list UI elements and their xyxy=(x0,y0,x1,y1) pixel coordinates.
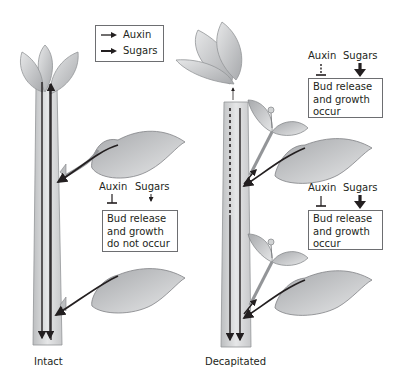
decap-top-outcome-box: Bud release and growth occur xyxy=(308,78,383,118)
intact-plant xyxy=(20,45,185,345)
legend-item-sugars: Sugars xyxy=(101,43,158,59)
decap-bottom-signal-glyphs xyxy=(316,195,366,209)
decap-top-sugars-label: Sugars xyxy=(343,50,377,62)
diagram-stage: Auxin Sugars Auxin Sugars Bud release an… xyxy=(0,0,393,378)
decap-top-signal-glyphs xyxy=(316,63,366,77)
outcome-line: do not occur xyxy=(107,238,173,251)
intact-stem xyxy=(33,86,62,345)
decap-bottom-outcome-box: Bud release and growth occur xyxy=(308,210,383,250)
intact-sugars-label: Sugars xyxy=(135,181,169,193)
intact-upper-leaf xyxy=(58,131,185,182)
outcome-line: Bud release xyxy=(313,81,378,94)
removed-apex xyxy=(176,22,242,84)
outcome-line: Bud release xyxy=(313,213,378,226)
legend: Auxin Sugars xyxy=(95,25,164,62)
decap-bottom-sugars-label: Sugars xyxy=(343,182,377,194)
caption-intact: Intact xyxy=(34,356,63,367)
outcome-line: and growth xyxy=(313,226,378,239)
caption-decapitated: Decapitated xyxy=(205,356,266,367)
intact-auxin-label: Auxin xyxy=(99,181,127,193)
intact-outcome-box: Bud release and growth do not occur xyxy=(102,210,178,252)
outcome-line: occur xyxy=(313,106,378,119)
intact-signal-glyphs xyxy=(107,194,151,203)
thick-arrow-icon xyxy=(101,47,117,55)
decap-top-auxin-label: Auxin xyxy=(308,50,336,62)
outcome-line: and growth xyxy=(107,226,173,239)
decapitated-upper-leaf xyxy=(244,139,372,186)
decap-bottom-auxin-label: Auxin xyxy=(308,182,336,194)
thin-arrow-icon xyxy=(101,31,117,39)
outcome-line: occur xyxy=(313,238,378,251)
legend-item-auxin: Auxin xyxy=(101,27,158,43)
intact-lower-leaf xyxy=(56,269,185,315)
legend-label-auxin: Auxin xyxy=(123,27,151,43)
outcome-line: Bud release xyxy=(107,213,173,226)
outcome-line: and growth xyxy=(313,94,378,107)
legend-label-sugars: Sugars xyxy=(123,43,157,59)
